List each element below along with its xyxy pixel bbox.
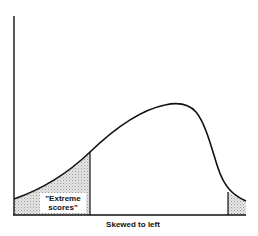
annotation-line-1: "Extreme (40, 194, 86, 203)
extreme-scores-annotation: "Extreme scores" (40, 193, 86, 213)
x-axis-title: Skewed to left (0, 220, 258, 229)
annotation-line-2: scores" (40, 203, 86, 212)
skew-diagram (0, 0, 258, 236)
